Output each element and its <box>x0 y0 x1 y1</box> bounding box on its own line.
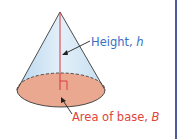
height-label-text: Height, <box>91 35 136 49</box>
base-label: Area of base, B <box>72 110 159 124</box>
cone-figure: Height, h Area of base, B <box>0 0 179 139</box>
base-variable: B <box>152 110 160 124</box>
base-label-text: Area of base, <box>72 110 152 124</box>
height-variable: h <box>136 35 143 49</box>
height-label: Height, h <box>91 35 144 49</box>
panel-border <box>175 0 177 139</box>
